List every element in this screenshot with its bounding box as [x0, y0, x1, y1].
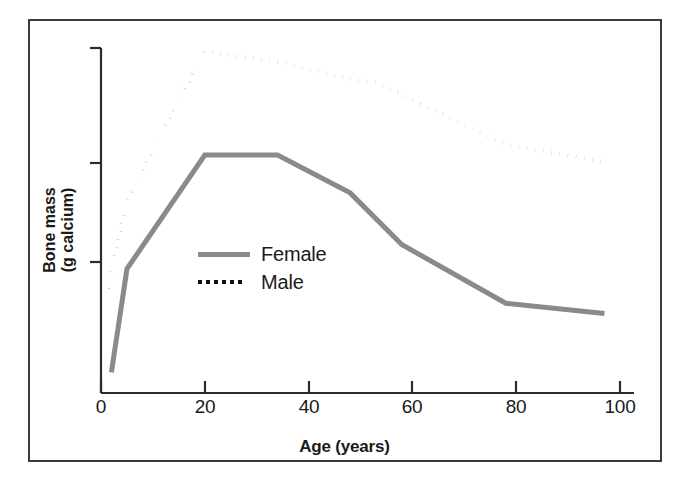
x-tick-label-60: 60 [402, 396, 423, 418]
legend-item-male: Male [196, 268, 386, 296]
x-axis-title: Age (years) [0, 437, 689, 457]
chart-page: 0 20 40 60 80 100 Age (years) Bone mass … [0, 0, 689, 481]
x-tick-label-100: 100 [605, 396, 636, 418]
y-axis-title-line1: Bone mass [41, 187, 58, 272]
legend-swatch-dotted-line-icon [196, 272, 252, 292]
legend-swatch-solid-line-icon [196, 244, 252, 264]
legend-label-male: Male [261, 272, 304, 292]
chart-legend: Female Male [196, 240, 386, 296]
x-tick-label-0: 0 [96, 396, 106, 418]
x-tick-label-40: 40 [299, 396, 320, 418]
y-axis-title: Bone mass (g calcium) [41, 187, 77, 272]
x-tick-label-20: 20 [195, 396, 216, 418]
y-axis-title-container: Bone mass (g calcium) [36, 150, 82, 310]
legend-label-female: Female [261, 244, 327, 264]
x-tick-label-80: 80 [506, 396, 527, 418]
legend-item-female: Female [196, 240, 386, 268]
y-axis-title-line2: (g calcium) [59, 187, 77, 272]
